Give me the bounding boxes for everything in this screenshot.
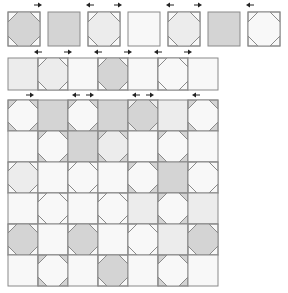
arrow-head bbox=[38, 3, 42, 8]
tile-square bbox=[128, 58, 158, 90]
grid-tile bbox=[8, 162, 38, 193]
tile-square bbox=[8, 131, 38, 162]
grid-tile bbox=[8, 131, 38, 162]
row1-tile bbox=[88, 12, 120, 46]
arrow-head bbox=[94, 50, 98, 55]
arrow-head bbox=[150, 93, 154, 98]
grid-tile bbox=[98, 131, 128, 162]
arrow-head bbox=[188, 50, 192, 55]
arrow-left-icon bbox=[72, 93, 80, 98]
row2-tile bbox=[128, 58, 158, 90]
arrow-right-icon bbox=[184, 50, 192, 55]
row2-tile bbox=[98, 58, 128, 90]
grid-tile bbox=[158, 100, 188, 131]
arrow-left-icon bbox=[192, 93, 200, 98]
tile-square bbox=[68, 255, 98, 286]
grid-tile bbox=[68, 100, 98, 131]
tile-square bbox=[188, 131, 218, 162]
grid-tile bbox=[158, 131, 188, 162]
tile-square bbox=[208, 12, 240, 46]
row2-tile bbox=[38, 58, 68, 90]
arrow-head bbox=[118, 3, 122, 8]
tile-diagram bbox=[0, 0, 288, 293]
tile-square bbox=[8, 255, 38, 286]
tile-square bbox=[158, 224, 188, 255]
grid-tile bbox=[8, 100, 38, 131]
arrow-head bbox=[246, 3, 250, 8]
arrow-right-icon bbox=[146, 93, 154, 98]
row1-tile bbox=[8, 12, 40, 46]
row1-tile bbox=[208, 12, 240, 46]
grid-tile bbox=[188, 255, 218, 286]
tile-square bbox=[188, 193, 218, 224]
arrow-head bbox=[86, 3, 90, 8]
arrow-head bbox=[132, 93, 136, 98]
tile-square bbox=[38, 162, 68, 193]
grid-tile bbox=[128, 224, 158, 255]
grid-tile bbox=[98, 193, 128, 224]
arrow-head bbox=[72, 93, 76, 98]
grid-tile bbox=[128, 100, 158, 131]
grid-tile bbox=[188, 100, 218, 131]
grid-tile bbox=[98, 100, 128, 131]
grid-tile bbox=[98, 224, 128, 255]
grid-tile bbox=[38, 100, 68, 131]
grid-tile bbox=[8, 224, 38, 255]
row2-tile bbox=[188, 58, 218, 90]
arrow-head bbox=[34, 50, 38, 55]
grid-tile bbox=[158, 193, 188, 224]
tile-square bbox=[68, 193, 98, 224]
arrow-left-icon bbox=[154, 50, 162, 55]
tile-square bbox=[128, 255, 158, 286]
arrow-head bbox=[30, 93, 34, 98]
tile-square bbox=[68, 58, 98, 90]
grid-tile bbox=[98, 255, 128, 286]
row2-tile bbox=[8, 58, 38, 90]
tile-square bbox=[158, 100, 188, 131]
arrow-head bbox=[90, 93, 94, 98]
tile-square bbox=[98, 162, 128, 193]
row1-tile bbox=[48, 12, 80, 46]
arrow-left-icon bbox=[166, 3, 174, 8]
arrow-right-icon bbox=[124, 50, 132, 55]
arrow-left-icon bbox=[94, 50, 102, 55]
grid-tile bbox=[68, 224, 98, 255]
arrow-head bbox=[154, 50, 158, 55]
grid-tile bbox=[128, 193, 158, 224]
arrow-head bbox=[166, 3, 170, 8]
grid-tile bbox=[38, 255, 68, 286]
tile-square bbox=[128, 12, 160, 46]
tile-square bbox=[128, 193, 158, 224]
tile-square bbox=[128, 131, 158, 162]
arrow-left-icon bbox=[132, 93, 140, 98]
row1-tile bbox=[248, 12, 280, 46]
tile-square bbox=[48, 12, 80, 46]
tile-square bbox=[188, 58, 218, 90]
row2-tile bbox=[158, 58, 188, 90]
grid-tile bbox=[128, 131, 158, 162]
grid-tile bbox=[68, 193, 98, 224]
grid-tile bbox=[188, 224, 218, 255]
grid-tile bbox=[188, 162, 218, 193]
arrow-right-icon bbox=[26, 93, 34, 98]
grid-tile bbox=[128, 255, 158, 286]
grid-tile bbox=[188, 131, 218, 162]
grid-tile bbox=[68, 255, 98, 286]
tile-square bbox=[98, 224, 128, 255]
grid-tile bbox=[158, 224, 188, 255]
arrow-right-icon bbox=[64, 50, 72, 55]
arrow-head bbox=[128, 50, 132, 55]
grid-tile bbox=[158, 162, 188, 193]
arrow-head bbox=[198, 3, 202, 8]
arrow-head bbox=[192, 93, 196, 98]
grid-tile bbox=[38, 224, 68, 255]
grid-tile bbox=[98, 162, 128, 193]
arrow-right-icon bbox=[34, 3, 42, 8]
tile-square bbox=[158, 162, 188, 193]
grid-tile bbox=[8, 193, 38, 224]
grid-tile bbox=[8, 255, 38, 286]
tile-square bbox=[38, 224, 68, 255]
tile-square bbox=[188, 255, 218, 286]
arrow-right-icon bbox=[194, 3, 202, 8]
grid-tile bbox=[38, 131, 68, 162]
